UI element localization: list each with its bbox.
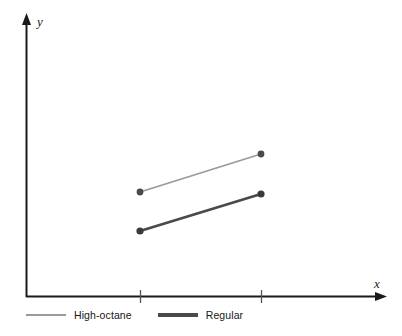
legend-label-regular: Regular: [206, 309, 243, 321]
legend-swatch-regular: [158, 313, 198, 317]
data-point-high-octane-1: [137, 189, 144, 196]
data-point-regular-2: [257, 190, 264, 197]
legend-swatch-high-octane: [26, 314, 66, 316]
y-axis-arrowhead: [22, 13, 31, 25]
series-line-regular: [140, 194, 261, 231]
y-axis-label: y: [35, 14, 43, 29]
legend-item-high-octane[interactable]: High-octane: [26, 309, 132, 321]
series-line-high-octane: [140, 154, 261, 192]
chart-legend: High-octane Regular: [26, 305, 386, 325]
data-point-high-octane-2: [258, 151, 265, 158]
chart-canvas: y x: [0, 0, 402, 336]
legend-item-regular[interactable]: Regular: [158, 309, 243, 321]
interaction-plot: y x High-octane Regular: [0, 0, 402, 336]
x-axis-label: x: [373, 276, 380, 291]
legend-label-high-octane: High-octane: [74, 309, 132, 321]
x-axis-arrowhead: [375, 292, 387, 301]
data-point-regular-1: [136, 227, 143, 234]
